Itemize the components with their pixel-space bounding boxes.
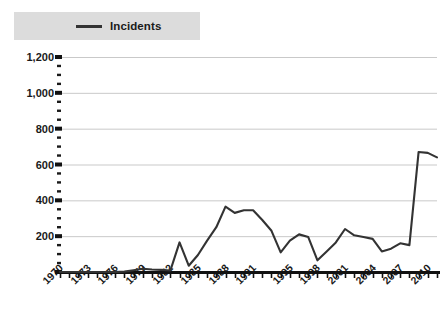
- y-minor-tick: [57, 154, 61, 156]
- y-minor-tick: [57, 253, 61, 255]
- y-minor-tick: [57, 262, 61, 264]
- plot-area: [0, 0, 447, 331]
- y-minor-tick: [57, 172, 61, 174]
- y-minor-tick: [57, 74, 61, 76]
- data-series-incidents-line: [60, 152, 437, 272]
- y-axis-major-ticks: [55, 55, 62, 274]
- y-minor-tick: [57, 110, 61, 112]
- y-minor-tick: [57, 190, 61, 192]
- y-minor-tick: [57, 83, 61, 85]
- y-minor-tick: [57, 145, 61, 147]
- y-minor-tick: [57, 217, 61, 219]
- y-major-tick: [55, 198, 62, 202]
- y-minor-tick: [57, 136, 61, 138]
- y-minor-tick: [57, 208, 61, 210]
- y-minor-tick: [57, 119, 61, 121]
- y-major-tick: [55, 234, 62, 238]
- y-major-tick: [55, 55, 62, 59]
- y-major-tick: [55, 163, 62, 167]
- y-major-tick: [55, 127, 62, 131]
- y-minor-tick: [57, 181, 61, 183]
- chart-container: Incidents 1,2001,000800600400200 1970197…: [0, 0, 447, 331]
- y-minor-tick: [57, 65, 61, 67]
- y-minor-tick: [57, 226, 61, 228]
- y-minor-tick: [57, 244, 61, 246]
- y-major-tick: [55, 91, 62, 95]
- y-minor-tick: [57, 101, 61, 103]
